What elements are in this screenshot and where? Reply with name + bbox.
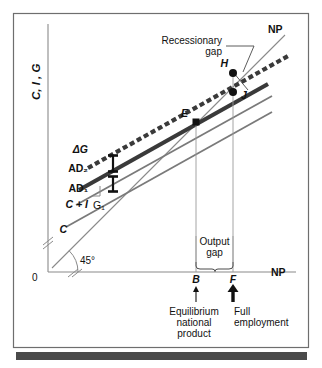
- recessionary-gap-label-line2: gap: [205, 46, 222, 57]
- point-E: [193, 119, 200, 126]
- figure-frame: [14, 14, 309, 348]
- recessionary-gap-label-line1: Recessionary: [161, 35, 222, 46]
- point-label-H: H: [220, 57, 228, 69]
- x-tick-label-b: B: [192, 273, 200, 285]
- y-axis-label: C, I , G: [30, 64, 42, 100]
- full-employment-caption-line1: Full: [234, 306, 250, 317]
- g1-label: G₁: [93, 199, 105, 211]
- ad2-label: AD₂: [68, 162, 88, 174]
- figure-container: C, I , G NP 0 45° NP Recessionary gap Ou…: [0, 0, 322, 368]
- output-gap-label-line1: Output: [199, 236, 229, 247]
- np-line-label: NP: [268, 23, 283, 35]
- footer-bar: [16, 352, 307, 360]
- point-label-E: E: [181, 107, 189, 119]
- x-axis-label: NP: [271, 266, 286, 278]
- c-plus-i-label: C + I: [66, 198, 90, 210]
- ad1-label: AD₁: [68, 182, 88, 194]
- angle-label: 45°: [80, 255, 95, 266]
- output-gap-label-line2: gap: [206, 247, 223, 258]
- point-J: [229, 88, 237, 96]
- origin-label: 0: [32, 272, 38, 283]
- c-label: C: [59, 223, 67, 235]
- equilibrium-caption-line1: Equilibrium: [169, 306, 218, 317]
- x-tick-label-f: F: [230, 273, 237, 285]
- equilibrium-caption-line2: national: [176, 317, 211, 328]
- economics-diagram: C, I , G NP 0 45° NP Recessionary gap Ou…: [0, 0, 322, 368]
- point-H: [229, 69, 237, 77]
- equilibrium-caption-line3: product: [177, 328, 211, 339]
- full-employment-caption-line2: employment: [234, 317, 289, 328]
- delta-g-label: ΔG: [72, 143, 88, 155]
